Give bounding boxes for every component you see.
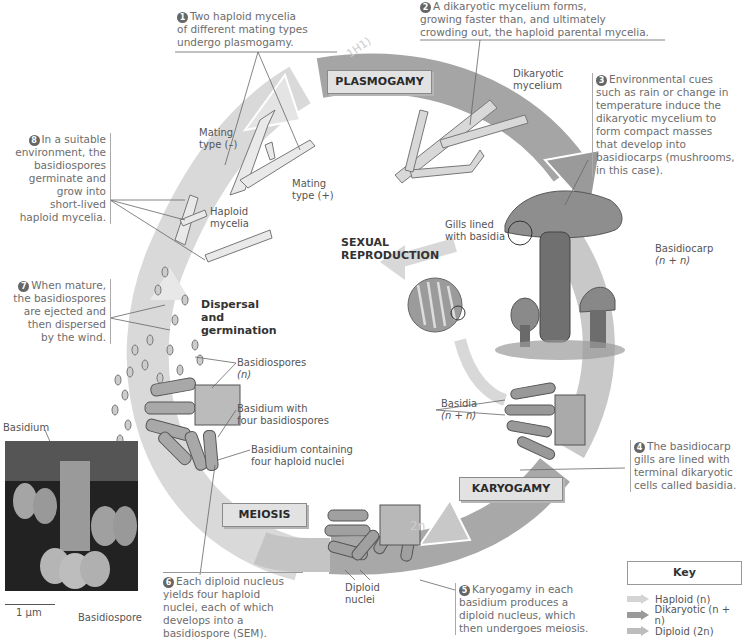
scale-bar-label: 1 µm [16, 607, 42, 619]
step-number-badge: 5 [459, 585, 470, 596]
label-line: (n) [237, 369, 306, 381]
step-5-line: basidium produces a [459, 596, 609, 609]
label-line: Diploid [345, 582, 380, 594]
label-diploid-nuclei: Diploid nuclei [345, 582, 380, 606]
step-4-line: terminal dikaryotic [634, 466, 745, 479]
sem-micrograph [5, 441, 138, 591]
step-7-line: When mature, [31, 279, 106, 291]
step-number-badge: 2 [420, 2, 431, 13]
label-line: four haploid nuclei [251, 456, 353, 468]
dispersal-line1: Dispersal [201, 298, 277, 311]
label-mating-plus: Mating type (+) [292, 178, 334, 202]
legend-item-dikaryotic: Dikaryotic (n + n) [627, 607, 742, 623]
step-7-line: the basidiospores [0, 292, 106, 305]
label-line: Dikaryotic [513, 68, 564, 80]
step-3-line: temperature induce the [596, 99, 745, 112]
label-line: Mating [199, 127, 237, 139]
dispersal-line3: germination [201, 324, 277, 337]
step-6-line: yields four haploid [163, 588, 303, 601]
label-line: Gills lined [445, 219, 505, 231]
dispersal-label: Dispersal and germination [201, 298, 277, 337]
label-line: Basidiocarp [655, 243, 713, 255]
diploid-arrow-icon [627, 626, 649, 636]
label-line: type (–) [199, 139, 237, 151]
step-3-line: that develop into [596, 138, 745, 151]
label-line: Basidia [441, 398, 477, 410]
label-gills: Gills lined with basidia [445, 219, 505, 243]
step-2: 2A dikaryotic mycelium forms, growing fa… [420, 0, 670, 39]
stage-plasmogamy: PLASMOGAMY [327, 70, 432, 94]
center-label: SEXUAL REPRODUCTION [341, 236, 439, 262]
step-6-line: nuclei, each of which [163, 601, 303, 614]
step-number-badge: 3 [596, 75, 607, 86]
legend-label: Dikaryotic (n + n) [655, 604, 742, 626]
step-6-line: develops into a [163, 614, 303, 627]
step-1: 1Two haploid mycelia of different mating… [177, 10, 342, 49]
stage-meiosis: MEIOSIS [222, 503, 307, 527]
step-5-line: Karyogamy in each [472, 583, 573, 595]
gill-magnified-drawing [408, 278, 465, 332]
label-dikaryotic-mycelium: Dikaryotic mycelium [513, 68, 564, 92]
label-line: with basidia [445, 231, 505, 243]
label-line: Haploid [210, 206, 249, 218]
label-basidiospores: Basidiospores (n) [237, 357, 306, 381]
step-7: 7When mature, the basidiospores are ejec… [0, 279, 111, 344]
step-8-line: basidiospores [0, 159, 106, 172]
legend: Key Haploid (n) Dikaryotic (n + n) Diplo… [627, 561, 742, 639]
label-basidium-four-nuclei: Basidium containing four haploid nuclei [251, 444, 353, 468]
label-line: Mating [292, 178, 334, 190]
step-6: 6Each diploid nucleus yields four haploi… [163, 572, 303, 640]
label-line: mycelium [513, 80, 564, 92]
label-mating-minus: Mating type (–) [199, 127, 237, 151]
label-line: (n + n) [655, 255, 713, 267]
step-4-line: gills are lined with [634, 453, 745, 466]
step-5-line: diploid nucleus, which [459, 609, 609, 622]
step-4: 4The basidiocarp gills are lined with te… [630, 440, 745, 492]
dikaryotic-arrow-icon [627, 610, 649, 620]
step-8-line: In a suitable [42, 133, 107, 145]
legend-label: Haploid (n) [655, 594, 710, 605]
center-label-line1: SEXUAL [341, 236, 439, 249]
step-5-line: then undergoes meiosis. [459, 622, 609, 635]
step-3-line: basidiocarps (mushrooms, [596, 151, 745, 164]
stage-karyogamy: KARYOGAMY [459, 477, 563, 501]
handwriting-bottom: 2n [410, 519, 425, 533]
label-line: mycelia [210, 218, 249, 230]
legend-label: Diploid (2n) [655, 626, 714, 637]
step-number-badge: 7 [18, 281, 29, 292]
step-3-line: in this case). [596, 164, 745, 177]
step-7-line: then dispersed [0, 318, 106, 331]
step-8-line: short-lived [0, 198, 106, 211]
step-3-line: Environmental cues [609, 73, 713, 85]
sem-basidiospore-label: Basidiospore [78, 612, 142, 624]
step-number-badge: 8 [29, 135, 40, 146]
step-8-line: haploid mycelia. [0, 211, 106, 224]
step-8-line: environment, the [0, 146, 106, 159]
basidiocarp-drawing [495, 191, 625, 360]
label-line: type (+) [292, 190, 334, 202]
haploid-arrow-icon [627, 594, 649, 604]
label-line: (n + n) [441, 410, 477, 422]
step-8-line: grow into [0, 185, 106, 198]
dispersal-line2: and [201, 311, 277, 324]
label-line: Basidium containing [251, 444, 353, 456]
step-number-badge: 4 [634, 442, 645, 453]
step-1-line: undergo plasmogamy. [177, 36, 342, 49]
step-1-line: Two haploid mycelia [190, 10, 296, 22]
step-number-badge: 6 [163, 577, 174, 588]
step-6-line: Each diploid nucleus [176, 575, 284, 587]
step-8-line: germinate and [0, 172, 106, 185]
label-line: nuclei [345, 594, 380, 606]
step-6-line: basidiospore (SEM). [163, 627, 303, 640]
step-2-line: crowding out, the haploid parental mycel… [420, 26, 670, 39]
label-line: four basidiospores [237, 415, 329, 427]
scale-bar [5, 604, 55, 605]
step-8: 8In a suitable environment, the basidios… [0, 133, 111, 224]
step-7-line: are ejected and [0, 305, 106, 318]
step-2-line: growing faster than, and ultimately [420, 13, 670, 26]
label-basidium-four-spores: Basidium with four basidiospores [237, 403, 329, 427]
step-4-line: cells called basidia. [634, 479, 745, 492]
label-haploid-mycelia: Haploid mycelia [210, 206, 249, 230]
step-5: 5Karyogamy in each basidium produces a d… [455, 583, 609, 635]
label-line: Basidium with [237, 403, 329, 415]
